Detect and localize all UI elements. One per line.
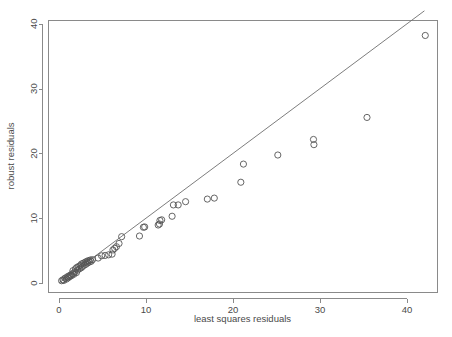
y-tick-label: 30 bbox=[28, 83, 39, 94]
data-point bbox=[169, 213, 175, 219]
data-point bbox=[204, 196, 210, 202]
plot-canvas: 010203040 010203040 least squares residu… bbox=[0, 0, 452, 337]
scatter-plot-figure: 010203040 010203040 least squares residu… bbox=[0, 0, 452, 337]
data-points-group bbox=[59, 32, 429, 283]
data-point bbox=[175, 202, 181, 208]
data-point bbox=[211, 195, 217, 201]
x-tick-label: 0 bbox=[56, 304, 61, 315]
data-point bbox=[238, 179, 244, 185]
y-axis-label: robust residuals bbox=[5, 122, 16, 189]
plot-frame bbox=[49, 21, 438, 293]
x-tick-label: 10 bbox=[141, 304, 152, 315]
y-axis-ticks: 010203040 bbox=[28, 19, 43, 286]
y-tick-label: 0 bbox=[28, 280, 39, 285]
reference-line-group bbox=[59, 11, 424, 283]
x-axis-label: least squares residuals bbox=[194, 313, 291, 324]
identity-reference-line bbox=[59, 11, 424, 283]
y-tick-label: 40 bbox=[28, 19, 39, 30]
y-tick-label: 20 bbox=[28, 148, 39, 159]
data-point bbox=[182, 199, 188, 205]
data-point bbox=[275, 152, 281, 158]
data-point bbox=[422, 32, 428, 38]
y-tick-label: 10 bbox=[28, 213, 39, 224]
x-tick-label: 30 bbox=[315, 304, 326, 315]
plot-frame-rect bbox=[49, 21, 438, 293]
data-point bbox=[364, 114, 370, 120]
data-point bbox=[240, 161, 246, 167]
data-point bbox=[136, 233, 142, 239]
x-tick-label: 40 bbox=[402, 304, 413, 315]
